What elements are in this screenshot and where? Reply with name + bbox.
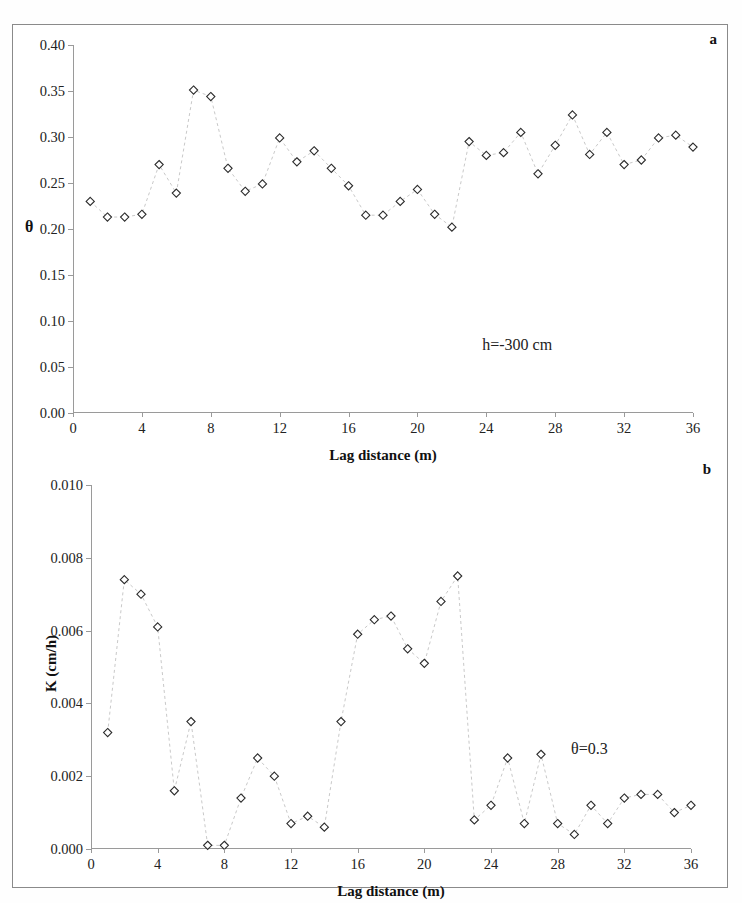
data-point-marker — [654, 790, 662, 798]
data-point-marker — [687, 801, 695, 809]
data-point-marker — [86, 197, 94, 205]
data-point-marker — [587, 801, 595, 809]
panel-b-annotation: θ=0.3 — [571, 740, 608, 758]
panel-b-label: b — [703, 461, 711, 478]
y-tick-label: 0.35 — [40, 83, 65, 100]
y-tick-label: 0.10 — [40, 313, 65, 330]
x-tick — [691, 849, 692, 853]
x-tick — [624, 849, 625, 853]
y-tick-label: 0.00 — [40, 405, 65, 422]
data-point-marker — [620, 161, 628, 169]
panel-a-label: a — [710, 31, 718, 48]
x-tick-label: 32 — [617, 856, 632, 873]
data-point-marker — [470, 816, 478, 824]
x-tick-label: 4 — [154, 856, 161, 873]
data-point-marker — [637, 156, 645, 164]
data-point-marker — [520, 819, 528, 827]
data-point-marker — [362, 211, 370, 219]
x-tick — [211, 413, 212, 417]
data-point-marker — [138, 210, 146, 218]
data-point-marker — [304, 812, 312, 820]
x-tick — [224, 849, 225, 853]
data-point-marker — [189, 86, 197, 94]
x-tick — [558, 849, 559, 853]
data-point-marker — [404, 645, 412, 653]
x-tick-label: 20 — [410, 420, 425, 437]
y-tick — [68, 229, 73, 230]
data-point-marker — [551, 141, 559, 149]
x-tick-label: 12 — [272, 420, 287, 437]
x-tick — [693, 413, 694, 417]
data-point-marker — [568, 111, 576, 119]
y-tick — [68, 275, 73, 276]
y-tick-label: 0.40 — [40, 37, 65, 54]
x-tick — [491, 849, 492, 853]
data-point-marker — [241, 187, 249, 195]
figure-page: a θ Lag distance (m) 0.000.050.100.150.2… — [0, 0, 742, 903]
data-point-marker — [654, 134, 662, 142]
y-tick — [86, 703, 91, 704]
y-tick-label: 0.010 — [50, 477, 83, 494]
x-tick-label: 32 — [617, 420, 632, 437]
x-tick-label: 24 — [484, 856, 499, 873]
x-tick — [142, 413, 143, 417]
x-tick — [424, 849, 425, 853]
panel-a: a θ Lag distance (m) 0.000.050.100.150.2… — [13, 25, 729, 457]
y-tick-label: 0.004 — [50, 695, 83, 712]
x-tick-label: 28 — [550, 856, 565, 873]
panel-a-series — [73, 45, 693, 413]
data-point-marker — [465, 138, 473, 146]
data-point-marker — [437, 597, 445, 605]
series-line — [108, 576, 691, 845]
data-point-marker — [620, 794, 628, 802]
x-tick-label: 16 — [341, 420, 356, 437]
y-tick-label: 0.002 — [50, 768, 83, 785]
y-tick — [86, 558, 91, 559]
y-tick — [86, 485, 91, 486]
y-tick-label: 0.15 — [40, 267, 65, 284]
data-point-marker — [172, 189, 180, 197]
data-point-marker — [287, 819, 295, 827]
x-tick — [280, 413, 281, 417]
y-tick-label: 0.000 — [50, 841, 83, 858]
data-point-marker — [537, 750, 545, 758]
panel-a-plot-area: Lag distance (m) 0.000.050.100.150.200.2… — [73, 45, 693, 413]
x-tick-label: 24 — [479, 420, 494, 437]
panel-b: b K (cm/h) Lag distance (m) 0.0000.0020.… — [13, 457, 729, 889]
x-tick-label: 12 — [284, 856, 299, 873]
data-point-marker — [637, 790, 645, 798]
data-point-marker — [327, 164, 335, 172]
y-tick — [68, 91, 73, 92]
data-point-marker — [387, 612, 395, 620]
data-point-marker — [504, 754, 512, 762]
data-point-marker — [224, 164, 232, 172]
y-tick-label: 0.006 — [50, 622, 83, 639]
data-point-marker — [454, 572, 462, 580]
y-tick-label: 0.25 — [40, 175, 65, 192]
data-point-marker — [204, 841, 212, 849]
data-point-marker — [534, 170, 542, 178]
data-point-marker — [258, 180, 266, 188]
x-tick-label: 0 — [87, 856, 94, 873]
y-tick-label: 0.05 — [40, 359, 65, 376]
x-tick-label: 36 — [686, 420, 701, 437]
x-tick-label: 20 — [417, 856, 432, 873]
x-tick-label: 8 — [207, 420, 214, 437]
data-point-marker — [554, 819, 562, 827]
data-point-marker — [154, 623, 162, 631]
x-tick-label: 0 — [69, 420, 76, 437]
y-tick — [68, 183, 73, 184]
data-point-marker — [379, 211, 387, 219]
data-point-marker — [254, 754, 262, 762]
data-point-marker — [431, 210, 439, 218]
panel-a-y-axis-title: θ — [25, 218, 33, 236]
data-point-marker — [320, 823, 328, 831]
data-point-marker — [121, 213, 129, 221]
data-point-marker — [517, 128, 525, 136]
x-tick-label: 28 — [548, 420, 563, 437]
x-tick-label: 36 — [684, 856, 699, 873]
x-tick — [358, 849, 359, 853]
x-tick — [417, 413, 418, 417]
x-tick-label: 16 — [350, 856, 365, 873]
data-point-marker — [586, 150, 594, 158]
